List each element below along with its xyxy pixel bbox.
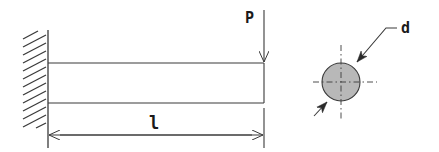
beam	[48, 63, 264, 103]
point-load-arrow: P	[245, 9, 264, 62]
diameter-label: d	[401, 19, 410, 37]
length-label: l	[149, 113, 159, 133]
circular-cross-section	[313, 45, 377, 120]
wall-hatching	[23, 31, 46, 128]
fixed-wall-support	[23, 30, 48, 148]
length-dimension: l	[49, 108, 264, 148]
cantilever-diagram: P l d	[0, 0, 439, 152]
load-label: P	[245, 9, 254, 27]
